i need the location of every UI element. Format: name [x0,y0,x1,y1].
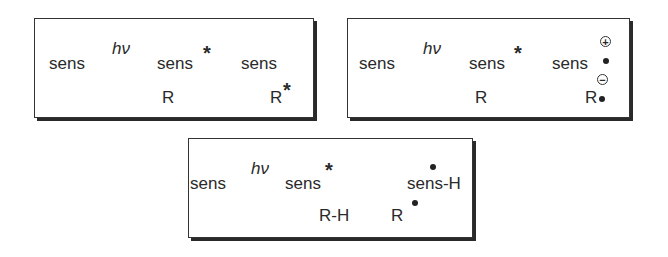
radical-dot-icon [412,200,418,206]
sens-start: sens [49,55,85,72]
minus-charge-icon: − [597,74,608,85]
sens-h-radical: sens-H [407,175,461,192]
excited-star: * [514,43,522,63]
reactant-rh: R-H [319,207,349,224]
sens-start: sens [359,55,395,72]
sens-product: sens [241,55,277,72]
sens-radical-cation: sens [552,55,588,72]
sens-excited: sens [469,55,505,72]
sens-excited: sens [157,55,193,72]
product-r: R [270,89,282,106]
excited-star: * [203,43,211,63]
light-label: hν [112,40,130,57]
radical-dot-icon [603,58,609,64]
radical-r: R [391,207,403,224]
product-star: * [283,80,291,100]
radical-dot-icon [599,96,605,102]
sens-start: sens [190,175,226,192]
excited-star: * [325,160,333,180]
radical-anion-r: R [585,89,597,106]
light-label: hν [423,40,441,57]
reactant-r: R [162,89,174,106]
reactant-r: R [475,89,487,106]
plus-charge-icon: + [600,36,611,47]
sens-excited: sens [285,175,321,192]
light-label: hν [251,160,269,177]
radical-dot-icon [430,164,436,170]
